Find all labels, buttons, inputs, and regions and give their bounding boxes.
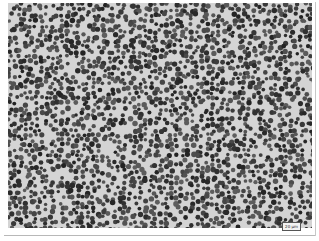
scale-bar-label: 20 µm	[282, 222, 301, 231]
image-frame: 20 µm	[0, 0, 319, 241]
micrograph-image	[8, 3, 312, 228]
frame-border-right	[315, 2, 316, 236]
frame-border-bottom	[4, 235, 315, 236]
cell-field	[8, 3, 312, 228]
